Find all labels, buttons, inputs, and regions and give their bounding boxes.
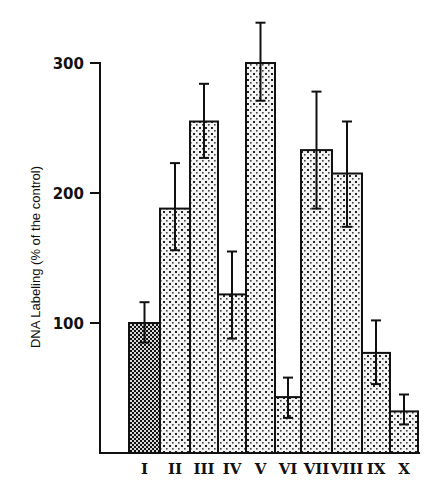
x-tick-label-VIII: VIII [330, 460, 364, 478]
bar-V [246, 63, 275, 453]
y-axis-label: DNA Labeling (% of the control) [28, 166, 43, 348]
y-tick-label: 200 [53, 185, 84, 203]
x-tick-label-X: X [398, 460, 410, 478]
y-tick-label: 100 [53, 315, 84, 333]
x-tick-label-IV: IV [223, 460, 242, 478]
bar-III [190, 122, 218, 454]
bar-chart: 100200300 IIIIIIIVVVIVIIVIIIIXX DNA Labe… [0, 0, 436, 493]
x-tick-label-IX: IX [367, 460, 386, 478]
x-tick-label-VII: VII [303, 460, 330, 478]
x-tick-label-I: I [141, 460, 148, 478]
x-axis-labels: IIIIIIIVVVIVIIVIIIIXX [141, 460, 410, 478]
bars-group [129, 63, 418, 453]
x-tick-label-VI: VI [278, 460, 298, 478]
y-tick-label: 300 [53, 55, 84, 73]
x-tick-label-III: III [193, 460, 214, 478]
x-tick-label-V: V [254, 460, 267, 478]
x-tick-label-II: II [168, 460, 182, 478]
